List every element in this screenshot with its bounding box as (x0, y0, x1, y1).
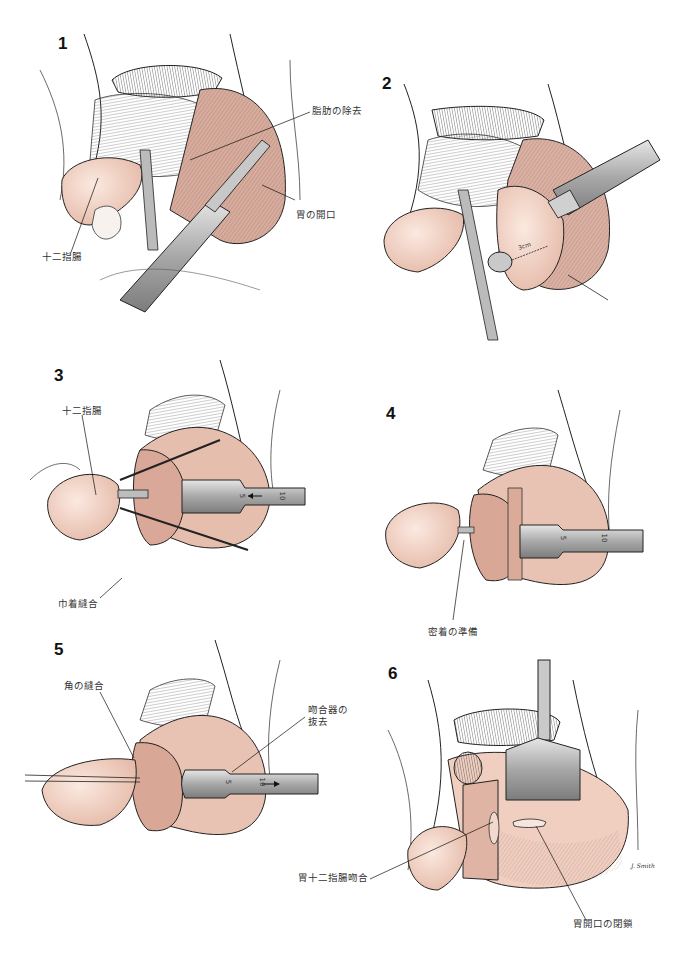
artist-signature: J. Smith (631, 860, 655, 872)
illustration-approximation (348, 380, 696, 650)
label-stapler-removal: 吻合器の 抜去 (308, 704, 348, 728)
scale-mark-10: 10 (598, 534, 610, 543)
illustration-fat-removal-gastrotomy (0, 0, 348, 320)
panel-step-4: 4 密着の準備 5 10 (348, 380, 696, 650)
panel-step-3: 3 十二指腸 巾着縫合 5 10 (0, 330, 348, 620)
illustration-purse-string (0, 330, 348, 620)
label-corner-suture: 角の縫合 (64, 680, 104, 692)
illustration-gastrotomy-closure (348, 650, 696, 950)
label-stapler-removal-line2: 抜去 (308, 716, 348, 728)
scale-mark-10: 10 (256, 778, 268, 787)
label-approximation-preparation: 密着の準備 (428, 626, 478, 638)
panel-step-6: 6 胃十二指腸吻合 胃開口の閉鎖 J. Smith (348, 650, 696, 950)
scale-mark-5: 5 (557, 536, 569, 540)
label-gastrotomy: 胃の開口 (296, 209, 336, 221)
label-duodenum: 十二指腸 (42, 251, 82, 263)
label-gastroduodenostomy: 胃十二指腸吻合 (298, 872, 368, 884)
scale-mark-5: 5 (222, 780, 234, 784)
panel-step-2: 2 3cm (348, 40, 696, 340)
illustration-stapler-removal (0, 640, 348, 880)
label-duodenum: 十二指腸 (62, 405, 102, 417)
label-purse-string-suture: 巾着縫合 (58, 598, 98, 610)
label-gastrotomy-closure: 胃開口の閉鎖 (573, 918, 633, 930)
panel-step-1: 1 (0, 0, 348, 320)
scale-mark-5: 5 (236, 494, 248, 498)
scale-mark-10: 10 (276, 492, 288, 501)
label-stapler-removal-line1: 吻合器の (308, 704, 348, 716)
illustration-stapler-insertion (348, 40, 696, 340)
panel-step-5: 5 角の縫合 吻合器の 抜去 5 10 (0, 640, 348, 880)
